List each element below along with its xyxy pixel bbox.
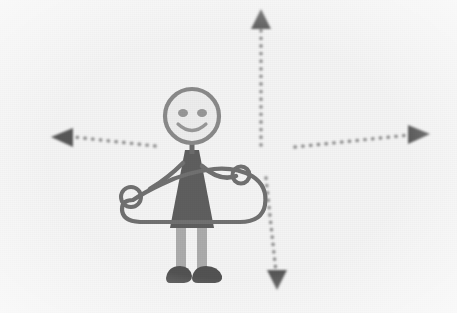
left-eye (178, 109, 188, 117)
drawing-canvas (0, 0, 457, 313)
left-leg (176, 222, 186, 270)
right-eye (197, 109, 207, 117)
canvas-background (0, 0, 457, 313)
right-leg (197, 222, 207, 270)
head (165, 89, 219, 143)
stick-figure-illustration (0, 0, 457, 313)
